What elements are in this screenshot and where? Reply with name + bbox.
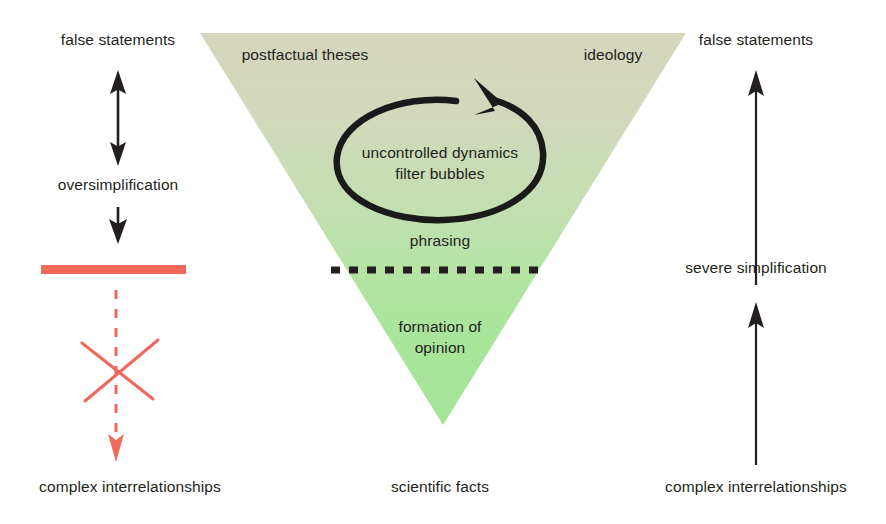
left-top-label: false statements bbox=[61, 30, 175, 49]
red-barrier-bar bbox=[41, 265, 186, 274]
triangle-mid-label: phrasing bbox=[410, 231, 470, 250]
triangle-lower-label-line2: opinion bbox=[415, 338, 466, 357]
diagram-root: false statements oversimplification comp… bbox=[0, 0, 886, 524]
cycle-label-line1: uncontrolled dynamics bbox=[362, 143, 518, 162]
left-down-arrow bbox=[109, 207, 127, 244]
right-top-label: false statements bbox=[699, 30, 813, 49]
left-double-arrow bbox=[110, 70, 126, 166]
inverted-triangle-shape bbox=[200, 33, 686, 425]
triangle-top-right-label: ideology bbox=[584, 45, 643, 64]
red-x-cross-icon bbox=[82, 340, 158, 401]
right-upper-up-arrow bbox=[748, 70, 764, 285]
triangle-top-left-label: postfactual theses bbox=[242, 45, 369, 64]
triangle-lower-label-line1: formation of bbox=[398, 317, 481, 336]
right-middle-label: severe simplification bbox=[685, 258, 827, 277]
left-middle-label: oversimplification bbox=[58, 175, 179, 194]
right-bottom-label: complex interrelationships bbox=[665, 477, 847, 496]
left-bottom-label: complex interrelationships bbox=[39, 477, 221, 496]
right-lower-up-arrow bbox=[748, 302, 764, 465]
triangle-apex-label: scientific facts bbox=[391, 477, 489, 496]
cycle-label-line2: filter bubbles bbox=[395, 164, 484, 183]
